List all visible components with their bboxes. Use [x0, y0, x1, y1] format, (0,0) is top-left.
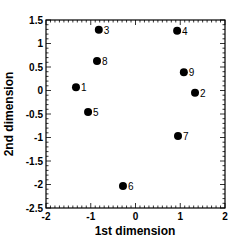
x-tick-labels: -2-1012 — [42, 211, 229, 222]
data-point-2: 2 — [191, 88, 206, 99]
x-tick-label: 1 — [177, 211, 183, 222]
y-tick-label: -2 — [34, 179, 43, 190]
point-label: 7 — [183, 131, 189, 142]
data-point-5: 5 — [84, 107, 99, 118]
point-label: 6 — [128, 181, 134, 192]
data-point-3: 3 — [95, 25, 110, 36]
point-marker — [93, 57, 101, 65]
data-point-8: 8 — [93, 56, 108, 67]
data-point-1: 1 — [72, 82, 87, 93]
point-marker — [72, 83, 80, 91]
point-marker — [95, 26, 103, 34]
x-tick-label: 0 — [133, 211, 139, 222]
y-tick-label: 1.5 — [29, 15, 43, 26]
axis-ticks — [46, 20, 225, 208]
x-tick-label: 2 — [222, 211, 228, 222]
point-marker — [180, 68, 188, 76]
plot-border — [46, 20, 225, 208]
y-tick-label: 0 — [37, 85, 43, 96]
point-marker — [173, 27, 181, 35]
y-tick-label: -1 — [34, 132, 43, 143]
x-axis-title: 1st dimension — [95, 224, 176, 238]
point-marker — [119, 182, 127, 190]
y-axis-title: 2nd dimension — [2, 72, 16, 157]
x-tick-label: -1 — [86, 211, 95, 222]
data-point-4: 4 — [173, 26, 188, 37]
point-label: 9 — [189, 67, 195, 78]
data-point-9: 9 — [180, 67, 195, 78]
plot-frame — [46, 20, 225, 208]
point-marker — [84, 108, 92, 116]
scatter-chart: -2-1012 1.510.50-0.5-1-1.5-2-2.5 1234567… — [0, 0, 239, 243]
point-label: 5 — [93, 107, 99, 118]
data-point-6: 6 — [119, 181, 134, 192]
y-tick-labels: 1.510.50-0.5-1-1.5-2-2.5 — [26, 15, 44, 214]
y-tick-label: -0.5 — [26, 109, 44, 120]
y-tick-label: 0.5 — [29, 62, 43, 73]
point-marker — [191, 89, 199, 97]
point-label: 8 — [102, 56, 108, 67]
point-label: 4 — [182, 26, 188, 37]
y-tick-label: -2.5 — [26, 203, 44, 214]
point-marker — [174, 132, 182, 140]
point-label: 1 — [81, 82, 87, 93]
point-label: 3 — [104, 25, 110, 36]
data-points: 123456789 — [72, 25, 206, 192]
data-point-7: 7 — [174, 131, 189, 142]
point-label: 2 — [200, 88, 206, 99]
y-tick-label: 1 — [37, 38, 43, 49]
y-tick-label: -1.5 — [26, 156, 44, 167]
